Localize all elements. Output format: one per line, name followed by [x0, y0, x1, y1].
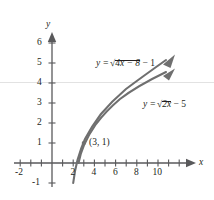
- y-tick-label-2: 2: [37, 118, 42, 128]
- curve-2-arrowhead: [163, 69, 175, 81]
- y-axis-label: y: [46, 20, 50, 30]
- x-axis-arrowhead: [186, 159, 196, 167]
- point-marker-3-1: [82, 141, 86, 145]
- radical-bar: [115, 60, 141, 61]
- radical-bar-2: [162, 101, 172, 102]
- graph-figure: 6 5 4 3 2 1 -1 -2 2 4 6 8 10 x y (3, 1) …: [0, 0, 214, 200]
- y-tick-label-6: 6: [37, 38, 42, 48]
- y-tick-label-1: 1: [37, 138, 42, 148]
- point-label: (3, 1): [89, 138, 110, 148]
- x-tick-label-4: 4: [92, 168, 97, 178]
- x-tick-label-8: 8: [134, 168, 139, 178]
- x-tick-label-10: 10: [153, 168, 163, 178]
- equation1-prefix: y =: [96, 58, 109, 68]
- equation2-radical: √2x: [156, 100, 171, 110]
- equation1-suffix: − 1: [143, 58, 155, 68]
- equation1-radical: √4x − 8: [109, 59, 140, 69]
- x-tick-label-6: 6: [113, 168, 118, 178]
- y-tick-label-4: 4: [37, 78, 42, 88]
- y-tick-label-5: 5: [37, 58, 42, 68]
- equation2-suffix: − 5: [174, 99, 186, 109]
- equation-label-curve1: y =√4x − 8 − 1: [96, 59, 155, 69]
- y-tick-label-neg1: -1: [32, 178, 40, 188]
- x-axis-label: x: [199, 158, 203, 168]
- equation2-prefix: y =: [143, 99, 156, 109]
- y-axis-arrowhead: [48, 32, 56, 42]
- x-tick-label-neg2: -2: [15, 168, 23, 178]
- y-tick-label-3: 3: [37, 98, 42, 108]
- equation-label-curve2: y =√2x − 5: [143, 100, 186, 110]
- x-tick-label-2: 2: [71, 168, 76, 178]
- curve-2-path: [79, 72, 167, 163]
